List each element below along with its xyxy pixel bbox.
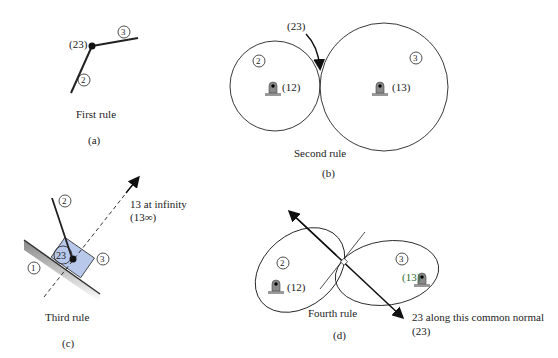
caption-d: (d) [333,329,346,341]
slider-23-label: 23 [56,250,66,262]
link-2-label-c: 2 [62,195,67,207]
link-1-label-c: 1 [31,262,36,274]
pivot-13-label-d: (13) [402,271,420,283]
third-rule-title: Third rule [45,311,89,323]
normal-sub-label: (23) [412,325,430,337]
link-3-label: 3 [121,26,126,38]
diagram-canvas [0,0,558,358]
pivot-12-icon-d [268,280,284,294]
second-rule-title: Second rule [294,147,346,159]
link-3-label-b: 3 [413,52,418,64]
link-3-label-d: 3 [399,253,404,265]
normal-label: 23 along this common normal [412,311,544,323]
infinity-label: 13 at infinity [130,198,187,210]
instant-centers-figure: (23) 3 2 First rule (a) (23) 2 3 (12) (1… [0,0,558,358]
caption-c: (c) [62,337,74,349]
contact-23-label: (23) [287,20,305,32]
caption-b: (b) [322,167,335,179]
caption-a: (a) [88,134,100,146]
pivot-12-label-d: (12) [287,281,305,293]
joint-23-label: (23) [69,38,87,50]
panel-b-circles [230,23,448,151]
link-2-label-d: 2 [280,257,285,269]
link-3-label-c: 3 [100,253,105,265]
link-2-label: 2 [81,74,86,86]
link-2-label-b: 2 [256,55,261,67]
pivot-12-label: (12) [282,81,300,93]
pivot-12-icon [265,82,281,96]
infinity-sub-label: (13∞) [130,211,156,223]
fourth-rule-title: Fourth rule [308,307,357,319]
pivot-13-label: (13) [392,81,410,93]
pivot-13-icon [372,82,388,96]
panel-c-slider [24,178,138,302]
first-rule-title: First rule [76,108,116,120]
